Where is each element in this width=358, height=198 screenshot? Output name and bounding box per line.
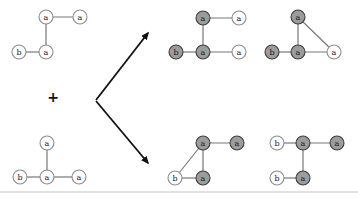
- edges-layer: [19, 17, 337, 178]
- graph-node-a: [232, 11, 246, 25]
- graph-node-b: [265, 45, 279, 59]
- input-graph-1-nodes: aaab: [12, 10, 87, 59]
- arrows-layer: [96, 33, 148, 163]
- graph-node-a: [291, 45, 305, 59]
- result-graph-1-nodes: aaaba: [169, 11, 246, 59]
- figure-canvas: aaabaabaaaabaaabaaaabbaaba +: [0, 0, 358, 198]
- nodes-layer: aaabaabaaaabaaabaaaabbaaba: [12, 10, 344, 185]
- graph-node-a: [40, 170, 54, 184]
- arrow-to-bottom-results: [96, 101, 148, 163]
- graph-node-a: [327, 45, 341, 59]
- graph-node-a: [230, 136, 244, 150]
- graph-node-a: [196, 11, 210, 25]
- graph-node-a: [40, 136, 54, 150]
- graph-node-a: [291, 10, 305, 24]
- graph-node-a: [39, 10, 53, 24]
- graph-node-a: [330, 136, 344, 150]
- input-graph-2-nodes: aaba: [13, 136, 86, 184]
- graph-node-a: [72, 170, 86, 184]
- result-graph-2-nodes: aaba: [265, 10, 341, 59]
- graph-node-a: [232, 45, 246, 59]
- plus-operator: +: [47, 89, 59, 105]
- result-graph-3-nodes: aaab: [168, 136, 244, 185]
- graph-node-a: [296, 136, 310, 150]
- graph-node-a: [296, 171, 310, 185]
- graph-merge-figure: aaabaabaaaabaaabaaaabbaaba +: [0, 0, 358, 198]
- graph-node-a: [196, 136, 210, 150]
- graph-node-b: [270, 136, 284, 150]
- graph-node-a: [39, 45, 53, 59]
- graph-node-a: [196, 171, 210, 185]
- graph-node-b: [270, 171, 284, 185]
- arrow-to-top-results: [96, 33, 148, 100]
- graph-node-b: [12, 45, 26, 59]
- graph-node-b: [169, 45, 183, 59]
- graph-node-a: [196, 45, 210, 59]
- graph-node-a: [73, 10, 87, 24]
- result-graph-4-nodes: baaba: [270, 136, 344, 185]
- graph-node-b: [168, 171, 182, 185]
- graph-node-b: [13, 170, 27, 184]
